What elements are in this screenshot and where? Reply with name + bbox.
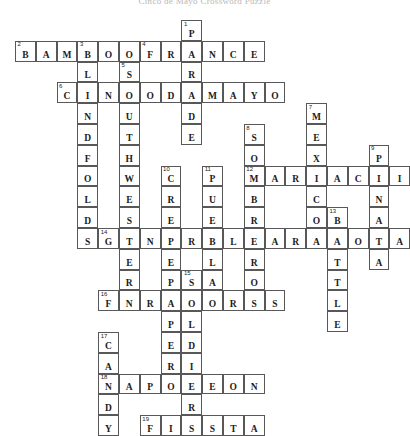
crossword-cell[interactable]: A (36, 41, 57, 62)
crossword-cell[interactable]: M (57, 41, 78, 62)
crossword-cell[interactable]: E (181, 124, 202, 145)
crossword-cell[interactable]: P (161, 270, 182, 291)
crossword-cell[interactable]: 10C (161, 166, 182, 187)
crossword-cell[interactable]: A (161, 290, 182, 311)
crossword-cell[interactable]: 12M (244, 166, 265, 187)
crossword-cell[interactable]: 14G (98, 228, 119, 249)
crossword-cell[interactable]: E (202, 374, 223, 395)
crossword-cell[interactable]: E (161, 207, 182, 228)
crossword-cell[interactable]: 17C (98, 332, 119, 353)
crossword-cell[interactable]: 15S (181, 270, 202, 291)
crossword-cell[interactable]: O (98, 41, 119, 62)
crossword-cell[interactable]: R (244, 249, 265, 270)
crossword-cell[interactable]: O (244, 270, 265, 291)
crossword-cell[interactable]: E (161, 249, 182, 270)
crossword-cell[interactable]: M (202, 82, 223, 103)
crossword-cell[interactable]: 19F (140, 415, 161, 436)
crossword-cell[interactable]: R (181, 228, 202, 249)
crossword-cell[interactable]: R (161, 186, 182, 207)
crossword-cell[interactable]: D (161, 82, 182, 103)
crossword-cell[interactable]: Y (98, 415, 119, 436)
crossword-cell[interactable]: A (202, 270, 223, 291)
crossword-cell[interactable]: 2B (15, 41, 36, 62)
crossword-cell[interactable]: P (161, 311, 182, 332)
crossword-cell[interactable]: 8S (244, 124, 265, 145)
crossword-cell[interactable]: U (119, 103, 140, 124)
crossword-cell[interactable]: O (140, 82, 161, 103)
crossword-cell[interactable]: R (161, 353, 182, 374)
crossword-cell[interactable]: N (244, 374, 265, 395)
crossword-cell[interactable]: E (119, 249, 140, 270)
crossword-cell[interactable]: A (98, 353, 119, 374)
crossword-cell[interactable]: S (77, 228, 98, 249)
crossword-cell[interactable]: A (306, 228, 327, 249)
crossword-cell[interactable]: A (265, 228, 286, 249)
crossword-cell[interactable]: F (77, 145, 98, 166)
crossword-cell[interactable]: I (161, 415, 182, 436)
crossword-cell[interactable]: E (306, 124, 327, 145)
crossword-cell[interactable]: P (140, 374, 161, 395)
crossword-cell[interactable]: S (181, 415, 202, 436)
crossword-cell[interactable]: R (181, 62, 202, 83)
crossword-cell[interactable]: 4F (140, 41, 161, 62)
crossword-cell[interactable]: C (306, 186, 327, 207)
crossword-cell[interactable]: O (161, 374, 182, 395)
crossword-cell[interactable]: E (244, 41, 265, 62)
crossword-cell[interactable]: 18N (98, 374, 119, 395)
crossword-cell[interactable]: I (181, 353, 202, 374)
crossword-cell[interactable]: Y (244, 82, 265, 103)
crossword-cell[interactable]: T (327, 270, 348, 291)
crossword-cell[interactable]: 3B (77, 41, 98, 62)
crossword-cell[interactable]: A (327, 228, 348, 249)
crossword-cell[interactable]: 5S (119, 62, 140, 83)
crossword-cell[interactable]: R (161, 41, 182, 62)
crossword-cell[interactable]: O (202, 290, 223, 311)
crossword-cell[interactable]: R (140, 290, 161, 311)
crossword-cell[interactable]: D (98, 394, 119, 415)
crossword-cell[interactable]: T (119, 228, 140, 249)
crossword-cell[interactable]: S (202, 415, 223, 436)
crossword-cell[interactable]: R (244, 207, 265, 228)
crossword-cell[interactable]: A (181, 41, 202, 62)
crossword-cell[interactable]: I (389, 166, 410, 187)
crossword-cell[interactable]: 16F (98, 290, 119, 311)
crossword-cell[interactable]: O (181, 290, 202, 311)
crossword-cell[interactable]: N (140, 228, 161, 249)
crossword-cell[interactable]: 1P (181, 20, 202, 41)
crossword-cell[interactable]: I (306, 166, 327, 187)
crossword-cell[interactable]: A (265, 166, 286, 187)
crossword-cell[interactable]: A (327, 166, 348, 187)
crossword-cell[interactable]: L (77, 62, 98, 83)
crossword-cell[interactable]: U (202, 186, 223, 207)
crossword-cell[interactable]: L (181, 311, 202, 332)
crossword-cell[interactable]: A (223, 82, 244, 103)
crossword-cell[interactable]: E (119, 186, 140, 207)
crossword-cell[interactable]: D (77, 207, 98, 228)
crossword-cell[interactable]: S (244, 290, 265, 311)
crossword-cell[interactable]: O (119, 41, 140, 62)
crossword-cell[interactable]: B (202, 228, 223, 249)
crossword-cell[interactable]: W (119, 166, 140, 187)
crossword-cell[interactable]: N (77, 103, 98, 124)
crossword-cell[interactable]: I (77, 82, 98, 103)
crossword-cell[interactable]: P (161, 228, 182, 249)
crossword-cell[interactable]: A (119, 374, 140, 395)
crossword-cell[interactable]: L (327, 290, 348, 311)
crossword-cell[interactable]: E (161, 332, 182, 353)
crossword-cell[interactable]: R (285, 228, 306, 249)
crossword-cell[interactable]: T (119, 124, 140, 145)
crossword-cell[interactable]: 11P (202, 166, 223, 187)
crossword-cell[interactable]: E (327, 311, 348, 332)
crossword-cell[interactable]: A (369, 249, 390, 270)
crossword-cell[interactable]: O (223, 374, 244, 395)
crossword-cell[interactable]: R (223, 290, 244, 311)
crossword-cell[interactable]: O (306, 207, 327, 228)
crossword-cell[interactable]: 13B (327, 207, 348, 228)
crossword-cell[interactable]: O (348, 228, 369, 249)
crossword-cell[interactable]: O (244, 145, 265, 166)
crossword-cell[interactable]: R (119, 270, 140, 291)
crossword-cell[interactable]: X (306, 145, 327, 166)
crossword-cell[interactable]: C (223, 41, 244, 62)
crossword-cell[interactable]: S (265, 290, 286, 311)
